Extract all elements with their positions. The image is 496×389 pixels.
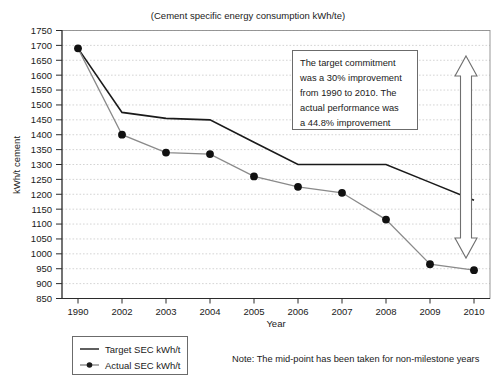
y-tick-label: 1600 xyxy=(31,70,52,81)
y-tick-label: 1400 xyxy=(31,129,52,140)
y-axis-label: kWh/t cement xyxy=(11,136,22,194)
data-point-actual-2010 xyxy=(470,266,478,274)
data-point-actual-2002 xyxy=(118,131,126,139)
legend-swatch-actual-marker xyxy=(87,362,93,368)
y-axis-ticks: 1750170016501600155015001450140013501300… xyxy=(31,25,62,304)
y-tick-label: 950 xyxy=(36,263,52,274)
y-tick-label: 850 xyxy=(36,293,52,304)
x-tick-label: 2008 xyxy=(375,306,396,317)
data-point-actual-2004 xyxy=(206,150,214,158)
y-tick-label: 1100 xyxy=(32,218,52,229)
x-tick-label: 2004 xyxy=(199,306,220,317)
data-point-actual-2006 xyxy=(294,183,302,191)
x-tick-label: 2003 xyxy=(155,306,176,317)
y-tick-label: 1350 xyxy=(31,144,52,155)
chart-footnote: Note: The mid-point has been taken for n… xyxy=(232,354,480,364)
data-point-actual-2005 xyxy=(250,173,258,181)
data-point-actual-2007 xyxy=(338,189,346,197)
y-tick-label: 1650 xyxy=(31,55,52,66)
legend-label-target: Target SEC kWh/t xyxy=(105,344,181,355)
x-tick-label: 2005 xyxy=(243,306,264,317)
y-tick-label: 1200 xyxy=(31,189,52,200)
x-tick-label: 2010 xyxy=(463,306,484,317)
annotation-line: a 44.8% improvement xyxy=(300,118,391,128)
y-tick-label: 1000 xyxy=(31,248,52,259)
data-point-actual-2009 xyxy=(426,260,434,268)
annotation-line: actual performance was xyxy=(300,103,399,113)
y-tick-label: 1450 xyxy=(31,114,52,125)
chart-legend: Target SEC kWh/t Actual SEC kWh/t xyxy=(73,337,188,375)
x-axis-label: Year xyxy=(266,318,285,329)
x-tick-label: 2002 xyxy=(111,306,132,317)
improvement-range-arrow xyxy=(455,56,477,258)
chart-title: (Cement specific energy consumption kWh/… xyxy=(151,10,345,21)
grid-lines xyxy=(62,31,490,299)
data-point-actual-2008 xyxy=(382,216,390,224)
y-tick-label: 1700 xyxy=(31,40,52,51)
y-tick-label: 1150 xyxy=(32,204,52,215)
y-tick-label: 1250 xyxy=(31,174,52,185)
y-tick-label: 1300 xyxy=(31,159,52,170)
cement-sec-line-chart: (Cement specific energy consumption kWh/… xyxy=(0,0,496,389)
y-tick-label: 1500 xyxy=(31,99,52,110)
y-tick-label: 1550 xyxy=(31,84,52,95)
y-tick-label: 1050 xyxy=(31,233,52,244)
x-tick-label: 2006 xyxy=(287,306,308,317)
annotation-box: The target commitmentwas a 30% improveme… xyxy=(293,51,418,130)
x-tick-label: 2007 xyxy=(331,306,352,317)
x-axis-ticks: 1990200220032004200520062007200820092010 xyxy=(67,299,484,317)
annotation-line: The target commitment xyxy=(300,58,396,68)
annotation-line: was a 30% improvement xyxy=(299,73,402,83)
legend-label-actual: Actual SEC kWh/t xyxy=(105,360,181,371)
x-tick-label: 2009 xyxy=(419,306,440,317)
data-point-actual-2003 xyxy=(162,149,170,157)
y-tick-label: 900 xyxy=(36,278,52,289)
data-point-actual-1990 xyxy=(74,44,82,52)
y-tick-label: 1750 xyxy=(31,25,52,36)
annotation-line: from 1990 to 2010. The xyxy=(300,88,396,98)
x-tick-label: 1990 xyxy=(67,306,88,317)
